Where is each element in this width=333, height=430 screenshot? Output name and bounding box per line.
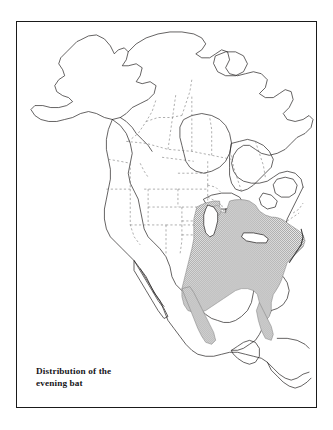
figure-caption: Distribution of the evening bat [36, 365, 186, 389]
evening-bat-range-shaded-area [182, 200, 305, 321]
us-pacific-coast [104, 119, 154, 292]
alaska-panhandle [120, 118, 152, 152]
province-border-ab-sk [168, 94, 176, 150]
newfoundland-outline [273, 177, 297, 197]
canada-mainland-outline [128, 32, 313, 187]
state-border-id-mt [140, 163, 148, 177]
territory-border-nwt-nu [182, 80, 192, 116]
cuba-outline [277, 338, 309, 348]
caption-line-2: evening bat [36, 377, 186, 389]
figure-frame-border: Distribution of the evening bat [16, 21, 317, 408]
state-border-ca-nv-az [130, 189, 140, 245]
province-border-north-line [126, 141, 231, 159]
north-america-distribution-map [17, 22, 316, 407]
state-border-wa-or [108, 159, 130, 163]
hudson-bay-outline [180, 114, 232, 174]
province-border-bc-ab [128, 100, 156, 142]
state-border-mn-wi [208, 185, 222, 193]
nova-scotia-outline [259, 193, 277, 209]
figure-root: Distribution of the evening bat [0, 0, 333, 430]
state-border-ny-ne-states [287, 213, 299, 221]
territory-border-yt-nwt [146, 116, 182, 122]
state-border-nm-tx [180, 225, 182, 255]
central-america [267, 362, 311, 388]
caption-line-1: Distribution of the [36, 365, 186, 377]
state-border-mt-nd [162, 157, 194, 161]
province-border-mb-on [210, 118, 212, 156]
arctic-islands-outline [214, 52, 248, 76]
province-border-qc-labrador [255, 141, 265, 177]
baja-california [134, 261, 168, 319]
alaska-outline [31, 35, 156, 122]
